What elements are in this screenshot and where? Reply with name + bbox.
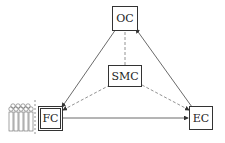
node-oc-label: OC bbox=[116, 12, 133, 25]
node-fc-label: FC bbox=[42, 112, 58, 125]
node-smc-label: SMC bbox=[111, 70, 138, 83]
edge-smc-ec bbox=[142, 85, 189, 110]
node-smc: SMC bbox=[108, 65, 142, 87]
edge-smc-fc bbox=[63, 85, 110, 110]
edge-ec-oc bbox=[136, 29, 192, 107]
node-fc: FC bbox=[38, 106, 63, 131]
node-ec: EC bbox=[189, 106, 213, 130]
node-ec-label: EC bbox=[193, 112, 209, 125]
people-group-icon bbox=[9, 104, 33, 131]
node-oc: OC bbox=[112, 6, 138, 31]
